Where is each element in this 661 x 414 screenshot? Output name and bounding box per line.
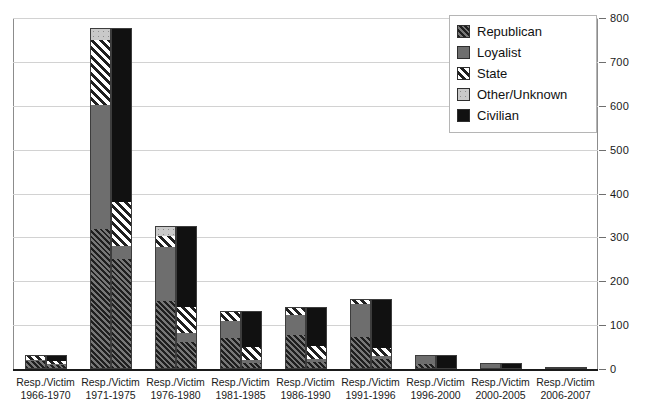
- bar-responsible[interactable]: [220, 311, 241, 369]
- legend-label: Republican: [477, 24, 542, 39]
- bar-group: [90, 28, 132, 369]
- legend-swatch-icon: [457, 67, 470, 80]
- bar-group: [415, 355, 457, 369]
- legend-label: Loyalist: [477, 45, 521, 60]
- stack-segment: [242, 363, 261, 368]
- y-tick-600: [599, 106, 606, 107]
- bar-victim[interactable]: [176, 226, 197, 369]
- legend-swatch-icon: [457, 46, 470, 59]
- chart-legend: RepublicanLoyalistStateOther/UnknownCivi…: [449, 15, 597, 133]
- legend-label: Civilian: [477, 108, 519, 123]
- x-label-line2: 1976-1980: [143, 389, 208, 402]
- y-axis-label: 500: [610, 144, 629, 156]
- gridline-0: [13, 369, 598, 371]
- x-axis-label: Resp./Victim1991-1996: [338, 376, 403, 402]
- stack-segment: [26, 361, 45, 368]
- bar-victim[interactable]: [371, 299, 392, 369]
- x-label-line2: 1986-1990: [273, 389, 338, 402]
- stack-segment: [307, 308, 326, 346]
- x-axis-label: Resp./Victim1981-1985: [208, 376, 273, 402]
- stack-segment: [416, 356, 435, 364]
- stack-segment: [91, 105, 110, 229]
- y-axis-label: 800: [610, 12, 629, 24]
- legend-swatch-icon: [457, 25, 470, 38]
- stack-segment: [437, 356, 456, 368]
- y-axis-label: 100: [610, 319, 629, 331]
- x-label-line1: Resp./Victim: [273, 376, 338, 389]
- bar-group: [545, 367, 587, 369]
- x-axis-label: Resp./Victim1971-1975: [78, 376, 143, 402]
- stack-segment: [177, 307, 196, 333]
- y-axis-label: 0: [610, 363, 616, 375]
- stack-segment: [156, 301, 175, 368]
- legend-item[interactable]: State: [457, 63, 589, 84]
- bar-responsible[interactable]: [155, 226, 176, 369]
- stack-segment: [351, 337, 370, 368]
- bar-responsible[interactable]: [90, 28, 111, 369]
- stack-segment: [177, 227, 196, 307]
- stack-segment: [286, 315, 305, 335]
- bar-responsible[interactable]: [415, 355, 436, 369]
- bar-victim[interactable]: [46, 355, 67, 369]
- bar-victim[interactable]: [111, 28, 132, 369]
- x-label-line1: Resp./Victim: [208, 376, 273, 389]
- x-axis-label: Resp./Victim1966-1970: [13, 376, 78, 402]
- x-label-line1: Resp./Victim: [338, 376, 403, 389]
- x-label-line2: 2006-2007: [533, 389, 598, 402]
- legend-item[interactable]: Civilian: [457, 105, 589, 126]
- stack-segment: [112, 246, 131, 259]
- stack-segment: [416, 364, 435, 368]
- stack-segment: [221, 338, 240, 369]
- x-label-line1: Resp./Victim: [403, 376, 468, 389]
- x-axis-label: Resp./Victim2006-2007: [533, 376, 598, 402]
- x-label-line2: 2000-2005: [468, 389, 533, 402]
- bar-group: [220, 311, 262, 369]
- y-tick-0: [599, 369, 606, 370]
- x-label-line2: 1971-1975: [78, 389, 143, 402]
- stack-segment: [286, 308, 305, 315]
- bar-responsible[interactable]: [25, 355, 46, 369]
- bar-victim[interactable]: [566, 367, 587, 369]
- bar-victim[interactable]: [306, 307, 327, 369]
- legend-item[interactable]: Loyalist: [457, 42, 589, 63]
- bar-responsible[interactable]: [480, 363, 501, 369]
- bar-group: [25, 355, 67, 369]
- y-tick-400: [599, 194, 606, 195]
- y-tick-500: [599, 150, 606, 151]
- bar-chart: 0100200300400500600700800 Resp./Victim19…: [0, 0, 661, 414]
- legend-item[interactable]: Other/Unknown: [457, 84, 589, 105]
- bar-victim[interactable]: [241, 311, 262, 369]
- bar-group: [155, 226, 197, 369]
- stack-segment: [372, 300, 391, 349]
- bar-victim[interactable]: [436, 355, 457, 369]
- legend-item[interactable]: Republican: [457, 21, 589, 42]
- x-label-line1: Resp./Victim: [533, 376, 598, 389]
- legend-label: State: [477, 66, 507, 81]
- x-label-line2: 1991-1996: [338, 389, 403, 402]
- bar-group: [350, 299, 392, 369]
- bar-group: [285, 307, 327, 369]
- bar-group: [480, 363, 522, 369]
- y-tick-100: [599, 325, 606, 326]
- x-axis-label: Resp./Victim1996-2000: [403, 376, 468, 402]
- y-axis-label: 600: [610, 100, 629, 112]
- stack-segment: [112, 259, 131, 368]
- x-axis-label: Resp./Victim2000-2005: [468, 376, 533, 402]
- stack-segment: [221, 321, 240, 338]
- x-label-line2: 1996-2000: [403, 389, 468, 402]
- bar-victim[interactable]: [501, 363, 522, 369]
- stack-segment: [481, 364, 500, 368]
- stack-segment: [47, 365, 66, 368]
- y-tick-300: [599, 237, 606, 238]
- bar-responsible[interactable]: [285, 307, 306, 369]
- y-axis-label: 300: [610, 231, 629, 243]
- stack-segment: [112, 202, 131, 246]
- stack-segment: [91, 229, 110, 368]
- stack-segment: [286, 335, 305, 368]
- bar-responsible[interactable]: [545, 367, 566, 369]
- x-axis-label: Resp./Victim1986-1990: [273, 376, 338, 402]
- bar-responsible[interactable]: [350, 299, 371, 369]
- y-tick-200: [599, 281, 606, 282]
- x-label-line1: Resp./Victim: [143, 376, 208, 389]
- legend-label: Other/Unknown: [477, 87, 567, 102]
